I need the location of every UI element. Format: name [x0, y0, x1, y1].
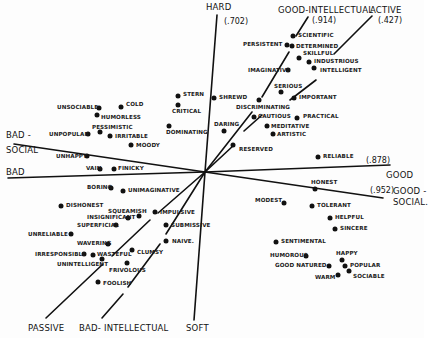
trait-label-naive: NAIVE. [172, 238, 194, 245]
trait-dot-serious [279, 90, 284, 95]
axis-label: SOCIAL. [393, 197, 428, 207]
trait-label-meditative: MEDITATIVE [271, 123, 309, 130]
trait-label-honest: HONEST [311, 179, 337, 186]
trait-label-humorous: HUMOROUS [270, 252, 308, 259]
trait-label-helpful: HELPFUL [335, 214, 364, 221]
trait-dot-unreliable [69, 232, 74, 237]
trait-dot-submissive [164, 223, 169, 228]
trait-dot-dishonest [59, 204, 64, 209]
axis-line [262, 52, 289, 97]
trait-dot-impulsive [153, 210, 158, 215]
axis-label: BAD [6, 167, 25, 177]
trait-dot-modest [282, 201, 287, 206]
axis-correlation-value: (.914) [312, 16, 336, 26]
trait-dot-unimaginative [121, 189, 126, 194]
trait-dot-humorless [95, 113, 100, 118]
trait-label-sincere: SINCERE [340, 225, 368, 232]
trait-label-vain: VAIN [86, 165, 101, 172]
axis-correlation-value: (.427) [378, 16, 402, 26]
trait-dot-happy [340, 258, 345, 263]
trait-dot-honest [313, 187, 318, 192]
axis-label: GOOD [386, 170, 413, 180]
trait-label-artistic: ARTISTIC [277, 131, 306, 138]
trait-label-practical: PRACTICAL [303, 113, 339, 120]
trait-label-unreliable: UNRELIABLE [28, 231, 68, 238]
trait-dot-naive [164, 239, 169, 244]
trait-dot-reliable [316, 155, 321, 160]
trait-dot-shrewd [212, 96, 217, 101]
trait-label-foolish: FOOLISH [103, 280, 131, 287]
axis-correlation-value: (.702) [224, 17, 248, 27]
trait-label-pessimistic: PESSIMISTIC [92, 124, 133, 131]
trait-dot-helpful [328, 216, 333, 221]
trait-label-dominating: DOMINATING [166, 129, 208, 136]
trait-dot-practical [295, 116, 300, 121]
trait-dot-artistic [271, 132, 276, 137]
trait-label-unimaginative: UNIMAGINATIVE [128, 187, 180, 194]
trait-dot-meditative [265, 124, 270, 129]
trait-dot-industrious [307, 60, 312, 65]
trait-dot-foolish [96, 280, 101, 285]
axis-line [8, 172, 205, 178]
trait-label-industrious: INDUSTRIOUS [314, 58, 359, 65]
trait-label-impulsive: IMPULSIVE [160, 209, 195, 216]
axis-label: SOCIAL [6, 145, 38, 155]
trait-label-imaginative: IMAGINATIVE [248, 67, 290, 74]
trait-dot-tolerant [310, 204, 315, 209]
trait-dot-wasteful [91, 253, 96, 258]
trait-label-irritable: IRRITABLE [115, 133, 148, 140]
trait-dot-finicky [112, 167, 117, 172]
trait-dot-good-natured [327, 264, 332, 269]
trait-label-determined: DETERMINED [296, 43, 338, 50]
trait-dot-scientific [291, 34, 296, 39]
trait-label-unpopular: UNPOPULAR [49, 131, 89, 138]
axis-label: ACTIVE [370, 5, 402, 15]
axis-line [46, 264, 103, 318]
trait-label-wavering: WAVERING [77, 240, 111, 247]
trait-label-tolerant: TOLERANT [317, 202, 351, 209]
axis-label: GOOD-INTELLECTUAL [278, 5, 373, 15]
trait-label-persistent: PERSISTENT [243, 41, 283, 48]
axis-line [102, 294, 123, 318]
trait-label-skillful: SKILLFUL [303, 50, 333, 57]
trait-label-warm: WARM [315, 274, 336, 281]
axis-line [14, 144, 205, 172]
trait-label-intelligent: INTELLIGENT [320, 67, 362, 74]
trait-label-happy: HAPPY [336, 250, 358, 257]
trait-dot-warm [336, 273, 341, 278]
trait-label-boring: BORING [87, 184, 112, 191]
trait-dot-irritable [108, 134, 113, 139]
trait-label-shrewd: SHREWD [219, 94, 247, 101]
trait-dot-sentimental [274, 240, 279, 245]
trait-dot-determined [290, 44, 295, 49]
trait-label-reliable: RELIABLE [323, 153, 354, 160]
axis-label: BAD- INTELLECTUAL [79, 323, 169, 333]
axis-label: SOFT [186, 323, 209, 333]
axis-line [205, 145, 234, 172]
trait-label-frivolous: FRIVOLOUS [109, 267, 146, 274]
axis-label: GOOD - [393, 186, 426, 196]
trait-label-sociable: SOCIABLE [353, 273, 385, 280]
trait-label-scientific: SCIENTIFIC [298, 32, 334, 39]
trait-label-popular: POPULAR [350, 262, 380, 269]
trait-dot-intelligent [312, 66, 317, 71]
trait-dot-reserved [231, 143, 236, 148]
axis-label: HARD [206, 2, 231, 12]
axis-label: BAD - [6, 130, 31, 140]
trait-label-stern: STERN [183, 91, 204, 98]
trait-label-critical: CRITICAL [172, 108, 201, 115]
trait-dot-daring [222, 129, 227, 134]
trait-label-cold: COLD [126, 101, 143, 108]
axis-line [205, 172, 383, 198]
trait-label-insignificant: INSIGNIFICANT [87, 214, 135, 221]
trait-label-humorless: HUMORLESS [101, 114, 141, 121]
trait-label-moody: MOODY [136, 142, 160, 149]
trait-dot-cautious [252, 115, 257, 120]
trait-dot-skillful [297, 56, 302, 61]
trait-label-clumsy: CLUMSY [137, 249, 163, 256]
trait-dot-sincere [333, 227, 338, 232]
trait-label-important: IMPORTANT [299, 94, 337, 101]
axis-line [194, 172, 205, 320]
trait-label-dishonest: DISHONEST [66, 202, 103, 209]
